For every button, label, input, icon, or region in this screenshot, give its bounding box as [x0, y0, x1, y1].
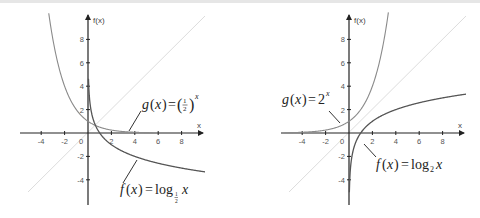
logarithm-curve-f [88, 79, 205, 172]
svg-text:2: 2 [175, 198, 178, 204]
y-tick-label: -2 [338, 152, 345, 161]
x-tick-label: 6 [156, 137, 160, 146]
svg-text:): ) [394, 157, 399, 173]
x-tick-label: -4 [38, 137, 45, 146]
y-tick-label: 8 [80, 35, 84, 44]
y-tick-label: -2 [77, 152, 84, 161]
y-axis-label: f(x) [93, 16, 105, 25]
g-formula-label: g ( x ) = ( 1 2 ) x [142, 92, 199, 114]
f-label-leader [123, 160, 137, 183]
g-formula-label: g ( x ) = 2 x [282, 89, 330, 108]
exponential-curve-g [49, 13, 153, 132]
svg-text:g: g [142, 97, 149, 112]
y-tick-label: 2 [341, 106, 345, 115]
x-tick-label: -2 [61, 137, 68, 146]
x-tick-label: 0 [79, 137, 83, 146]
svg-text:g: g [282, 92, 289, 107]
svg-text:2: 2 [318, 92, 325, 107]
svg-text:x: x [194, 92, 199, 101]
x-axis-label: x [197, 121, 201, 130]
y-tick-label: 6 [341, 59, 345, 68]
x-tick-label: 8 [180, 137, 184, 146]
svg-text:x: x [386, 157, 394, 172]
svg-text:2: 2 [183, 105, 187, 113]
x-tick-label: -4 [299, 137, 306, 146]
svg-text:=: = [145, 182, 153, 197]
svg-text:x: x [325, 89, 330, 98]
charts-canvas: -4-2024688642-2-4 f(x) x g ( x ) = ( 1 2… [0, 0, 480, 218]
x-tick-label: 6 [417, 137, 421, 146]
svg-text:x: x [294, 92, 302, 107]
y-tick-label: -4 [338, 176, 345, 185]
svg-text:=: = [401, 157, 409, 172]
svg-text:log: log [411, 157, 429, 172]
svg-text:): ) [138, 182, 143, 198]
svg-text:(: ( [177, 96, 182, 114]
y-tick-label: 4 [341, 82, 345, 91]
svg-text:): ) [189, 96, 194, 114]
g-label-leader [329, 111, 340, 123]
x-tick-label: -2 [322, 137, 329, 146]
left-chart: -4-2024688642-2-4 f(x) x g ( x ) = ( 1 2… [20, 13, 205, 205]
svg-text:x: x [130, 182, 138, 197]
right-chart: -4-2024688642-2-4 f(x) x g ( x ) = 2 x f… [281, 12, 466, 205]
x-tick-label: 0 [340, 137, 344, 146]
svg-text:): ) [302, 92, 307, 108]
y-tick-label: 8 [341, 35, 345, 44]
svg-text:x: x [154, 97, 162, 112]
x-tick-label: 8 [441, 137, 445, 146]
svg-text:=: = [168, 97, 176, 112]
x-tick-label: 4 [394, 137, 398, 146]
y-tick-label: -4 [77, 176, 84, 185]
svg-text:log: log [155, 182, 173, 197]
y-tick-label: 4 [80, 82, 84, 91]
svg-text:x: x [181, 182, 189, 197]
exponential-curve-g [285, 12, 389, 132]
svg-text:1: 1 [175, 191, 178, 197]
y-tick-label: 2 [80, 106, 84, 115]
x-axis-label: x [458, 121, 462, 130]
g-label-leader [129, 111, 141, 131]
y-tick-label: 6 [80, 59, 84, 68]
svg-text:x: x [435, 157, 443, 172]
f-formula-label: f ( x ) = log 2 x [376, 157, 443, 174]
logarithm-curve-f [349, 94, 466, 192]
x-tick-label: 2 [370, 137, 374, 146]
svg-text:): ) [162, 97, 167, 113]
svg-text:1: 1 [183, 97, 187, 105]
y-axis-label: f(x) [354, 16, 366, 25]
x-tick-label: 4 [133, 137, 137, 146]
f-formula-label: f ( x ) = log 1 2 x [120, 182, 189, 204]
svg-text:=: = [308, 92, 316, 107]
svg-text:2: 2 [430, 165, 434, 174]
